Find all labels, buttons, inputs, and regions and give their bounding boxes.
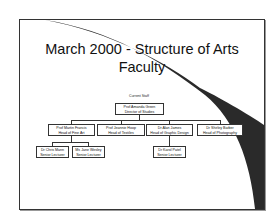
person-role: Head of Textiles	[98, 131, 144, 136]
org-box-staff-karol-patel: Dr Karol Patel Senior Lecturer	[153, 146, 186, 158]
person-name: Dr Chris Mann	[37, 148, 68, 153]
connector	[71, 120, 220, 121]
person-role: Senior Lecturer	[154, 153, 185, 158]
title-line-1: March 2000 - Structure of Arts	[19, 40, 265, 58]
connector	[52, 142, 89, 143]
person-role: Senior Lecturer	[73, 153, 104, 158]
org-box-staff-jane-wesley: Ms Jane Wesley Senior Lecturer	[72, 146, 105, 158]
title-line-2: Faculty	[19, 58, 265, 76]
person-role: Director of Studies	[116, 110, 163, 115]
caption-current-staff: Current Staff	[114, 94, 164, 98]
person-name: Ms Jane Wesley	[73, 148, 104, 153]
org-box-head-photography: Dr Shirley Barber Head of Photography	[197, 124, 243, 136]
org-box-head-fine-art: Prof Martin Francis Head of Fine Art	[48, 124, 95, 136]
org-box-staff-chris-mann: Dr Chris Mann Senior Lecturer	[36, 146, 69, 158]
connector	[169, 136, 170, 146]
person-role: Head of Graphic Design	[147, 131, 192, 136]
slide-title: March 2000 - Structure of Arts Faculty	[19, 40, 265, 76]
person-role: Head of Fine Art	[49, 131, 94, 136]
person-role: Senior Lecturer	[37, 153, 68, 158]
person-name: Dr Karol Patel	[154, 148, 185, 153]
org-box-director: Prof Amanda Green Director of Studies	[115, 103, 164, 115]
person-role: Head of Photography	[198, 131, 242, 136]
org-box-head-textiles: Prof Jeannie Hoop Head of Textiles	[97, 124, 145, 136]
org-box-head-graphic-design: Dr Alan James Head of Graphic Design	[146, 124, 193, 136]
